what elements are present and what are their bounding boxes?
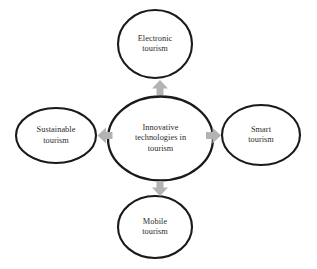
diagram-canvas: Innovative technologies in tourism Elect… [0,0,317,269]
node-smart-tourism[interactable]: Smart tourism [221,104,301,166]
node-label-electronic-tourism: Electronic tourism [134,34,177,55]
node-innovative-technologies-in-tourism[interactable]: Innovative technologies in tourism [107,96,214,181]
node-label-smart-tourism: Smart tourism [244,125,278,146]
arrow-down-icon [152,181,168,196]
node-electronic-tourism[interactable]: Electronic tourism [117,9,193,79]
node-sustainable-tourism[interactable]: Sustainable tourism [15,107,97,164]
node-label-innovative-technologies: Innovative technologies in tourism [131,123,190,154]
node-mobile-tourism[interactable]: Mobile tourism [117,195,193,259]
node-label-mobile-tourism: Mobile tourism [138,217,172,238]
arrow-up-icon [152,80,168,95]
node-label-sustainable-tourism: Sustainable tourism [33,125,80,146]
